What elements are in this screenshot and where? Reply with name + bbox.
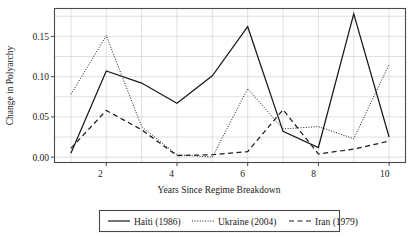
plot-frame [55, 9, 406, 163]
series-line-iran-1979 [71, 110, 389, 156]
legend-item-haiti[interactable]: Haiti (1986) [108, 217, 181, 228]
gridlines [55, 9, 405, 162]
tickmarks [51, 36, 389, 166]
legend: Haiti (1986) Ukraine (2004) Iran (1979) [100, 211, 359, 232]
y-tick-label-2: 0.10 [32, 72, 49, 82]
series-line-haiti-1986 [71, 14, 389, 153]
legend-label-haiti: Haiti (1986) [134, 217, 181, 228]
x-axis-title: Years Since Regime Breakdown [158, 185, 281, 195]
vertical-gridlines [71, 9, 389, 162]
series-lines [71, 14, 389, 157]
x-tick-labels: 2 4 6 8 10 [98, 169, 390, 179]
x-tick-label-2: 6 [240, 169, 245, 179]
chart-figure: 0.00 0.05 0.10 0.15 2 4 6 8 10 Years Sin… [0, 0, 415, 237]
x-tick-label-3: 8 [311, 169, 316, 179]
legend-item-ukraine[interactable]: Ukraine (2004) [192, 217, 276, 228]
legend-label-ukraine: Ukraine (2004) [218, 217, 276, 228]
legend-item-iran[interactable]: Iran (1979) [289, 217, 358, 228]
y-tick-label-0: 0.00 [32, 153, 49, 163]
y-tick-labels: 0.00 0.05 0.10 0.15 [32, 32, 49, 163]
y-tick-label-3: 0.15 [32, 32, 49, 42]
x-tick-label-4: 10 [380, 169, 390, 179]
y-axis-title: Change in Polyarchy [5, 45, 15, 125]
y-tick-label-1: 0.05 [32, 112, 49, 122]
legend-label-iran: Iran (1979) [315, 217, 358, 228]
x-tick-label-0: 2 [98, 169, 103, 179]
line-chart: 0.00 0.05 0.10 0.15 2 4 6 8 10 Years Sin… [0, 0, 415, 237]
series-line-ukraine-2004 [71, 36, 389, 158]
x-tick-label-1: 4 [169, 169, 174, 179]
